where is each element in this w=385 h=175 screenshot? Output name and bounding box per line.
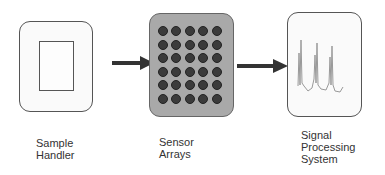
sensor-dot — [212, 80, 222, 90]
sensor-dot — [158, 53, 168, 63]
sensor-dot — [171, 94, 181, 104]
label-line: Sample — [36, 137, 75, 149]
sensor-dot — [185, 67, 195, 77]
sensor-dot — [198, 26, 208, 36]
sensor-dot — [185, 80, 195, 90]
label-line: Signal — [301, 129, 355, 141]
signal-processing-label: Signal Processing System — [301, 129, 355, 165]
sensor-arrays-label: Sensor Arrays — [159, 136, 194, 160]
label-line: Sensor — [159, 136, 194, 148]
sensor-dot — [171, 80, 181, 90]
label-line: Handler — [36, 149, 75, 161]
signal-processing-block — [287, 12, 362, 117]
sensor-dot — [171, 53, 181, 63]
sensor-dot — [185, 94, 195, 104]
sensor-dot — [198, 80, 208, 90]
sensor-dot — [158, 80, 168, 90]
signal-peaks-icon — [288, 13, 363, 118]
label-line: Arrays — [159, 148, 194, 160]
arrow-right-icon — [112, 56, 154, 70]
sensor-dot — [158, 40, 168, 50]
label-line: Processing — [301, 141, 355, 153]
sensor-dot — [171, 67, 181, 77]
sensor-arrays-block — [149, 13, 234, 117]
sensor-dot — [212, 94, 222, 104]
sample-handler-label: Sample Handler — [36, 137, 75, 161]
sensor-dot — [171, 26, 181, 36]
sensor-dot — [185, 26, 195, 36]
sensor-dot — [212, 53, 222, 63]
sensor-dot — [212, 26, 222, 36]
sample-slot — [39, 41, 74, 91]
sensor-dot — [158, 67, 168, 77]
sensor-dot — [198, 53, 208, 63]
sensor-dot — [158, 94, 168, 104]
arrow-right-icon — [237, 59, 288, 73]
label-line: System — [301, 153, 355, 165]
sensor-dot — [185, 40, 195, 50]
sensor-dot — [185, 53, 195, 63]
sensor-dot — [198, 67, 208, 77]
sensor-dot — [198, 40, 208, 50]
sensor-dot — [158, 26, 168, 36]
sensor-dot — [198, 94, 208, 104]
sensor-dot — [212, 67, 222, 77]
sensor-dot — [171, 40, 181, 50]
sensor-dot — [212, 40, 222, 50]
sample-handler-block — [19, 21, 93, 112]
